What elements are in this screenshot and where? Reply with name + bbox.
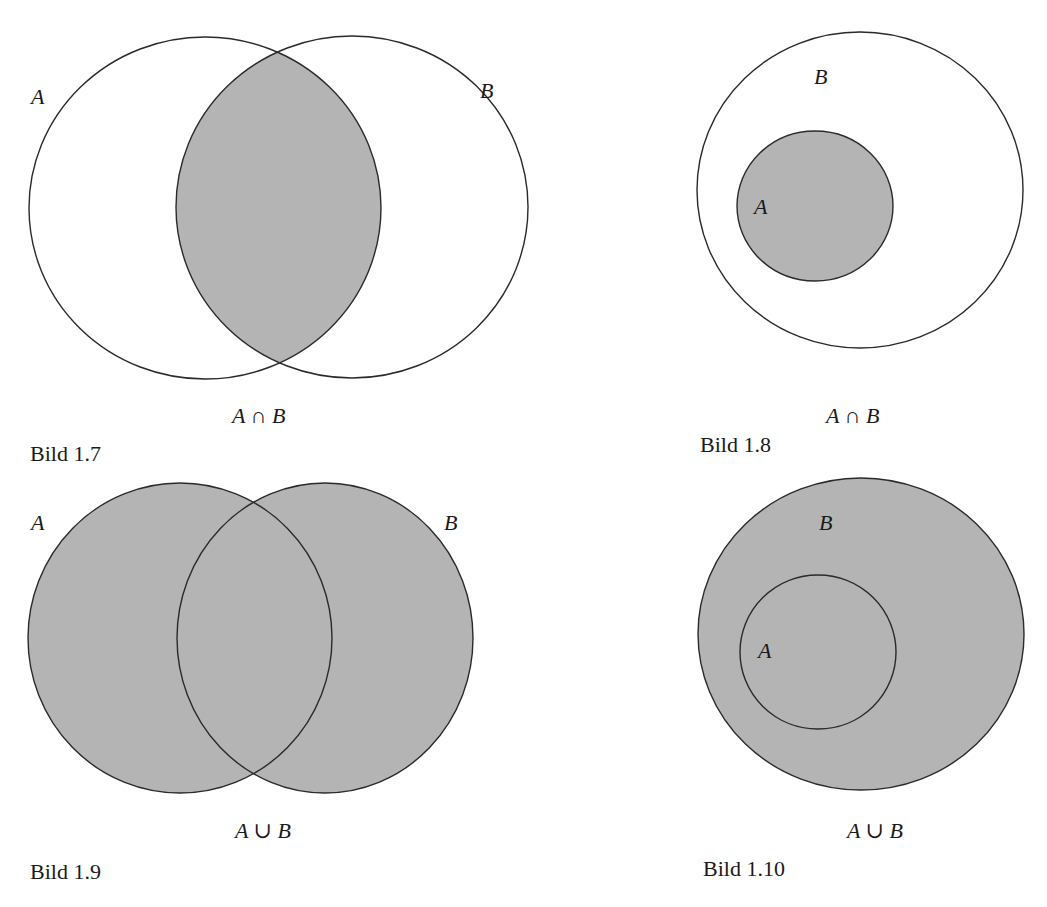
- fig-1-8-label-a: A: [754, 196, 767, 218]
- fig-1-8-label-b: B: [814, 66, 827, 88]
- fig-1-9-number: Bild 1.9: [30, 861, 101, 883]
- fig-1-7-label-b: B: [480, 80, 493, 102]
- fig-1-10-number: Bild 1.10: [703, 858, 785, 880]
- fig-1-10-label-b: B: [819, 512, 832, 534]
- set-b-circle-shaded: [698, 478, 1024, 790]
- fig-1-9-caption: A ∪ B: [235, 820, 291, 842]
- set-b-region-intersection: [176, 36, 528, 378]
- fig-1-8-caption: A ∩ B: [826, 405, 879, 427]
- figure-1-9-diagram: [28, 483, 473, 793]
- figure-1-10-diagram: [698, 478, 1024, 790]
- set-b-fill: [177, 483, 473, 793]
- fig-1-7-number: Bild 1.7: [30, 443, 101, 465]
- fig-1-8-number: Bild 1.8: [700, 434, 771, 456]
- fig-1-10-label-a: A: [758, 640, 771, 662]
- fig-1-10-caption: A ∪ B: [847, 820, 903, 842]
- figure-1-8-diagram: [697, 32, 1023, 348]
- venn-diagrams-canvas: [0, 0, 1047, 907]
- fig-1-7-caption: A ∩ B: [232, 405, 285, 427]
- figure-1-7-diagram: [29, 36, 528, 379]
- fig-1-9-label-a: A: [31, 512, 44, 534]
- fig-1-7-label-a: A: [31, 86, 44, 108]
- fig-1-9-label-b: B: [444, 512, 457, 534]
